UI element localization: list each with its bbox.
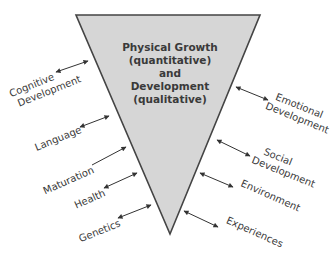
experiences-arrow — [184, 211, 218, 227]
experiences-label: Experiences — [225, 215, 285, 250]
environment-arrow — [200, 173, 233, 187]
genetics-label: Genetics — [77, 218, 122, 245]
cognitive-development-label: Cognitive Development — [8, 62, 83, 110]
maturation-label: Maturation — [41, 164, 95, 196]
center-line-5: (qualitative) — [133, 93, 207, 105]
language-arrow — [80, 116, 109, 127]
genetics-arrow — [118, 205, 151, 218]
health-label: Health — [72, 187, 106, 210]
social-development-label: Social Development — [250, 143, 321, 190]
emotional-development-label: Emotional Development — [264, 89, 335, 136]
center-line-4: Development — [131, 80, 210, 92]
environment-label: Environment — [239, 177, 302, 213]
social-development-arrow — [217, 140, 250, 156]
growth-development-diagram: Physical Growth (quantitative) and Devel… — [0, 0, 336, 260]
center-line-1: Physical Growth — [122, 41, 218, 53]
maturation-arrow — [92, 147, 126, 165]
cognitive-development-arrow — [56, 61, 88, 72]
language-label: Language — [33, 124, 83, 153]
emotional-development-arrow — [236, 87, 268, 100]
center-line-2: (quantitative) — [129, 54, 211, 66]
health-arrow — [104, 173, 137, 188]
center-line-3: and — [159, 67, 181, 79]
